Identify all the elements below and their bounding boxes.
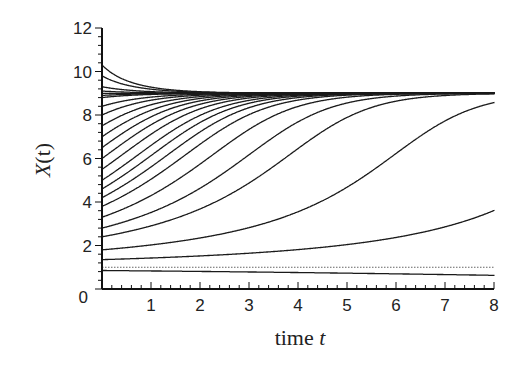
- x-tick-label: 5: [342, 296, 351, 315]
- y-tick-label: 8: [83, 106, 92, 125]
- solution-curve: [102, 94, 495, 237]
- chart: 12345678024681012 time t X(t): [0, 0, 528, 365]
- x-tick-label: 7: [440, 296, 449, 315]
- solution-curve: [102, 76, 495, 93]
- solution-curve: [102, 93, 495, 189]
- y-tick-label: 2: [83, 237, 92, 256]
- x-tick-label: 8: [489, 296, 498, 315]
- solution-curve: [102, 93, 495, 169]
- x-tick-label: 1: [146, 296, 155, 315]
- solution-curves: [102, 65, 495, 275]
- solution-curve: [102, 210, 495, 259]
- y-tick-label: 6: [83, 150, 92, 169]
- x-tick-label: 3: [244, 296, 253, 315]
- solution-curve: [102, 94, 495, 229]
- y-tick-label: 12: [73, 19, 92, 38]
- solution-curve: [102, 65, 495, 93]
- y-tick-label: 0: [79, 288, 88, 307]
- x-axis-title: time t: [275, 325, 327, 350]
- y-tick-label: 10: [73, 63, 92, 82]
- x-tick-label: 6: [391, 296, 400, 315]
- solution-curve: [102, 271, 495, 276]
- y-tick-label: 4: [83, 193, 92, 212]
- solution-curve: [102, 93, 495, 197]
- x-tick-label: 4: [293, 296, 302, 315]
- x-tick-label: 2: [195, 296, 204, 315]
- solution-curve: [102, 93, 495, 147]
- y-axis-title: X(t): [30, 143, 55, 178]
- solution-curve: [102, 103, 495, 250]
